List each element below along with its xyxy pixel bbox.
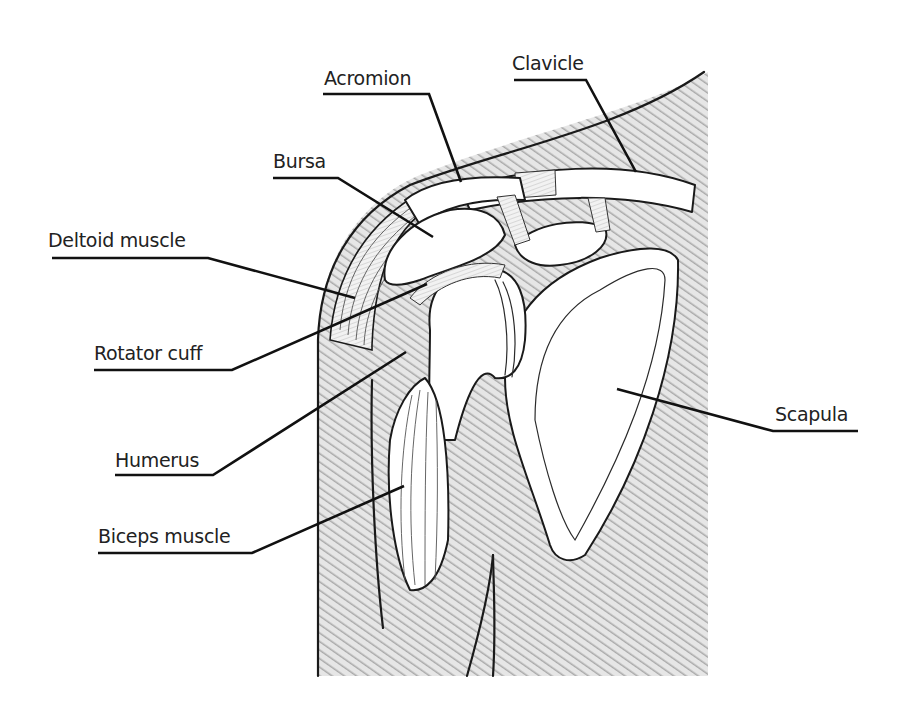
label-biceps: Biceps muscle — [98, 527, 230, 546]
label-rotator-cuff: Rotator cuff — [94, 344, 202, 363]
label-bursa: Bursa — [273, 152, 326, 171]
label-acromion: Acromion — [324, 69, 411, 88]
label-clavicle: Clavicle — [512, 54, 584, 73]
label-deltoid: Deltoid muscle — [48, 231, 186, 250]
leader-deltoid — [52, 258, 355, 298]
label-scapula: Scapula — [775, 405, 848, 424]
label-humerus: Humerus — [115, 451, 199, 470]
